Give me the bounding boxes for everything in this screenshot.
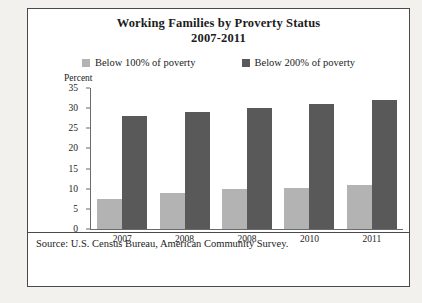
- plot-wrapper: Percent 05101520253035 20072008200820102…: [28, 73, 409, 248]
- legend-label-below-100: Below 100% of poverty: [95, 57, 196, 68]
- bar: [347, 185, 372, 229]
- bar-group: [153, 88, 215, 229]
- bar: [372, 100, 397, 229]
- bar: [122, 116, 147, 229]
- bar: [284, 188, 309, 229]
- legend-swatch-below-100: [82, 59, 90, 67]
- legend-swatch-below-200: [242, 59, 250, 67]
- legend-item-below-100: Below 100% of poverty: [82, 57, 196, 68]
- figure-frame: Working Families by Proverty Status 2007…: [27, 8, 410, 287]
- y-tick-label: 30: [69, 103, 79, 113]
- bars-layer: [91, 88, 403, 229]
- y-tick-label: 10: [69, 184, 79, 194]
- y-tick-label: 20: [69, 143, 79, 153]
- bar: [97, 199, 122, 229]
- bar: [160, 193, 185, 229]
- source-divider: [28, 232, 409, 233]
- y-axis-title: Percent: [64, 73, 93, 83]
- source-note: Source: U.S. Census Bureau, American Com…: [36, 238, 288, 249]
- bar: [247, 108, 272, 229]
- bar: [185, 112, 210, 229]
- chart-title-block: Working Families by Proverty Status 2007…: [28, 9, 409, 46]
- bar-group: [216, 88, 278, 229]
- x-axis-line: [90, 229, 403, 230]
- y-tick-label: 35: [69, 83, 79, 93]
- bar-group: [341, 88, 403, 229]
- chart-subtitle-years: 2007-2011: [28, 31, 409, 46]
- y-tick-label: 15: [69, 164, 79, 174]
- bar: [222, 189, 247, 229]
- plot-area: 05101520253035 20072008200820102011: [58, 88, 403, 229]
- x-tick-label: 2011: [341, 234, 403, 244]
- y-tick-label: 25: [69, 123, 79, 133]
- chart-legend: Below 100% of poverty Below 200% of pove…: [28, 57, 409, 68]
- y-tick-label: 5: [73, 204, 78, 214]
- legend-item-below-200: Below 200% of poverty: [242, 57, 356, 68]
- page-title: Working Families by Proverty Status: [28, 16, 409, 31]
- bar-group: [91, 88, 153, 229]
- y-axis-ticks: 05101520253035: [58, 88, 86, 229]
- bar: [309, 104, 334, 229]
- legend-label-below-200: Below 200% of poverty: [255, 57, 356, 68]
- bar-group: [278, 88, 340, 229]
